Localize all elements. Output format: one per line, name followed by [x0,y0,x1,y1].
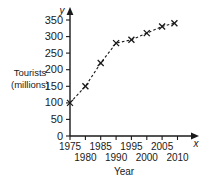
data-point [144,30,150,36]
y-tick-label: 250 [45,47,63,59]
x-tick-label: 2010 [166,152,189,163]
x-tick-label: 2000 [136,152,159,163]
y-tick-label: 100 [45,96,63,108]
y-tick-label: 200 [45,63,63,75]
tourism-line-chart: 0 50 100 150 200 250 300 350 1975 1985 1… [0,0,205,179]
x-tick-label: 2005 [151,141,174,152]
x-tick-label: 1980 [74,152,97,163]
series-line [70,23,174,103]
y-axis-arrowhead [67,7,74,15]
y-axis-title-line2: (millions) [11,79,49,90]
data-point [82,83,88,89]
y-axis-variable-name: y [59,5,66,16]
x-tick-label: 1985 [90,141,113,152]
y-tick-label: 50 [51,113,63,125]
x-tick-label: 1975 [59,141,82,152]
y-tick-labels: 0 50 100 150 200 250 300 350 [45,14,63,142]
data-point [98,60,104,66]
x-tick-label: 1990 [105,152,128,163]
series-markers [67,20,177,106]
x-axis-variable-name: x [193,138,200,149]
y-axis-title-line1: Tourists [14,67,47,78]
y-tick-label: 300 [45,30,63,42]
x-tick-labels-lower: 1980 1990 2000 2010 [74,152,189,163]
data-point [128,37,134,43]
y-tick-label: 0 [57,130,63,142]
chart-canvas: 0 50 100 150 200 250 300 350 1975 1985 1… [0,0,205,179]
x-axis-title: Year [114,166,135,177]
y-axis [67,7,74,136]
x-tick-label: 1995 [120,141,143,152]
x-axis [70,133,199,140]
x-tick-labels-upper: 1975 1985 1995 2005 [59,141,174,152]
